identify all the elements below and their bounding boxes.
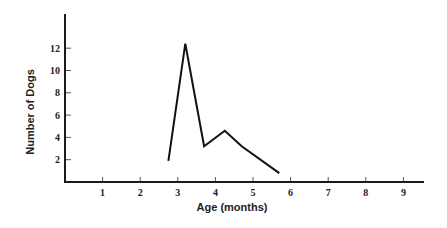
x-tick-label: 3 (175, 187, 180, 198)
y-tick-label: 10 (50, 65, 60, 76)
x-tick-label: 6 (288, 187, 293, 198)
y-axis-ticks: 24681012 (50, 43, 71, 166)
x-axis-ticks: 123456789 (100, 177, 406, 198)
x-tick-label: 7 (326, 187, 331, 198)
x-axis-title: Age (months) (197, 201, 268, 213)
x-tick-label: 4 (213, 187, 218, 198)
x-tick-label: 8 (363, 187, 368, 198)
y-tick-label: 2 (55, 154, 60, 165)
y-tick-label: 4 (55, 132, 60, 143)
x-tick-label: 9 (401, 187, 406, 198)
line-chart: 24681012 123456789 Number of Dogs Age (m… (0, 0, 447, 228)
y-tick-label: 12 (50, 43, 60, 54)
x-tick-label: 5 (251, 187, 256, 198)
y-axis-title: Number of Dogs (24, 69, 36, 155)
y-tick-label: 6 (55, 110, 60, 121)
y-tick-label: 8 (55, 87, 60, 98)
x-tick-label: 2 (138, 187, 143, 198)
x-tick-label: 1 (100, 187, 105, 198)
data-line-series (168, 44, 279, 173)
